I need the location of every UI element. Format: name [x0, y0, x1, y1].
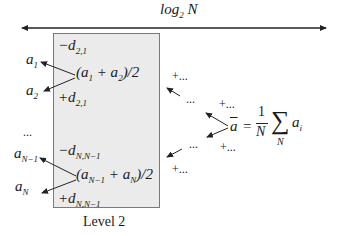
output-aN1: aN−1 — [14, 145, 38, 164]
plus-dots-4: +... — [172, 162, 188, 177]
axis-label: log2 N — [160, 1, 197, 20]
output-aN: aN — [15, 178, 29, 197]
average-a1-a2: (a1 + a2)/2 — [76, 64, 139, 83]
average-aN1-aN: (aN−1 + aN)/2 — [76, 166, 153, 185]
arrows-layer — [0, 0, 341, 236]
output-a1: a1 — [26, 51, 38, 70]
output-a2: a2 — [26, 82, 38, 101]
sigma-subscript: N — [277, 136, 284, 147]
mean-term: ai — [292, 114, 302, 133]
minus-d-2-1: −d2,1 — [58, 37, 87, 56]
mean-equals: = — [243, 118, 251, 135]
plus-dots-2: +... — [219, 97, 235, 112]
plus-dots-1: +... — [172, 69, 188, 84]
dots-2: ... — [189, 137, 198, 152]
minus-d-N-N1: −dN,N−1 — [58, 142, 100, 161]
level-caption: Level 2 — [83, 214, 125, 230]
plus-d-2-1: +d2,1 — [58, 89, 87, 108]
plus-dots-3: +... — [220, 140, 236, 155]
sigma-symbol: ∑ — [271, 106, 290, 136]
frac-numerator: 1 — [258, 104, 265, 120]
output-ellipsis: ... — [23, 125, 32, 140]
frac-denominator: N — [256, 124, 265, 140]
plus-d-N-N1: +dN,N−1 — [58, 190, 100, 209]
dots-1: ... — [186, 92, 195, 107]
mean-symbol: a — [230, 118, 238, 135]
